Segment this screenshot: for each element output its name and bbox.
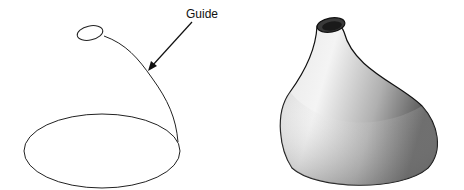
wireframe-panel: Guide xyxy=(0,0,232,190)
shaded-solid-drawing xyxy=(232,0,464,190)
wireframe-drawing xyxy=(0,0,232,190)
guide-label: Guide xyxy=(186,7,218,21)
base-ellipse xyxy=(24,114,180,188)
shaded-solid-panel xyxy=(232,0,464,190)
top-ellipse xyxy=(76,23,104,42)
guide-curve xyxy=(104,36,178,142)
guide-arrow-line xyxy=(152,22,192,66)
